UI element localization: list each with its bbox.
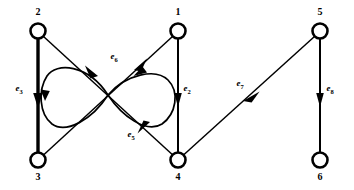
loop-left-path: [41, 68, 108, 128]
loop-left: [41, 66, 108, 128]
loop-right: [108, 67, 175, 127]
node-4[interactable]: [171, 153, 186, 168]
node-2-circle[interactable]: [31, 24, 46, 39]
node-label-5: 5: [318, 6, 323, 17]
edge-e8-arrowhead: [316, 93, 324, 107]
node-5[interactable]: [313, 24, 328, 39]
edge-label-e8-sub: 8: [330, 88, 334, 95]
graph-figure: 2 1 5 3 4 6 e3 e2 e8 e7 e6 e5: [0, 0, 354, 190]
edge-label-e5: e5: [127, 129, 135, 141]
node-6-circle[interactable]: [313, 153, 328, 168]
node-label-1: 1: [176, 6, 181, 17]
edge-label-e2: e2: [183, 83, 190, 95]
node-3-circle[interactable]: [31, 153, 46, 168]
edge-label-e6: e6: [110, 51, 118, 63]
node-6[interactable]: [313, 153, 328, 168]
node-4-circle[interactable]: [171, 153, 186, 168]
node-2[interactable]: [31, 24, 46, 39]
node-label-2: 2: [36, 6, 41, 17]
graph-canvas: 2 1 5 3 4 6 e3 e2 e8 e7 e6 e5: [0, 0, 354, 190]
node-1[interactable]: [171, 24, 186, 39]
node-label-6: 6: [318, 171, 323, 182]
edge-label-e7: e7: [236, 78, 244, 90]
edge-label-e8: e8: [326, 83, 334, 95]
edge-e8: [316, 39, 324, 152]
loop-right-path: [108, 74, 175, 127]
edge-label-e2-sub: 2: [187, 88, 190, 95]
edge-label-e6-sub: 6: [114, 56, 118, 63]
edge-label-e3-sub: 3: [19, 88, 23, 95]
edge-e7-line: [184, 37, 315, 156]
edge-e7: [184, 37, 315, 156]
node-3[interactable]: [31, 153, 46, 168]
node-label-4: 4: [176, 171, 181, 182]
node-5-circle[interactable]: [313, 24, 328, 39]
edge-label-e3: e3: [15, 83, 23, 95]
edge-label-e7-sub: 7: [240, 83, 244, 90]
node-1-circle[interactable]: [171, 24, 186, 39]
node-label-3: 3: [36, 171, 41, 182]
edge-label-e5-sub: 5: [131, 134, 135, 141]
